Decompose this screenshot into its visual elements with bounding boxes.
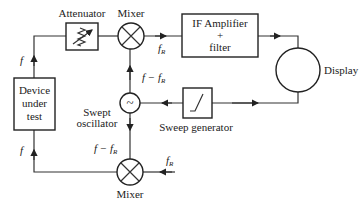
sine-wave-icon: ~: [126, 95, 133, 110]
dut-label-1: Device: [19, 84, 50, 96]
signal-fR-top: fR: [158, 42, 166, 56]
wire-if-to-display: [258, 36, 298, 48]
attenuator-label: Attenuator: [58, 7, 105, 19]
signal-f-minus-fR-top: f − fR: [142, 71, 166, 85]
wire-dut-to-attenuator: [34, 36, 66, 78]
wire-display-sweep: [212, 92, 298, 103]
mixer-bottom-block: Mixer: [117, 159, 144, 200]
signal-fR-bottom: fR: [166, 154, 174, 168]
spectrum-analyzer-block-diagram: Attenuator Mixer IF Amplifier + filter D…: [0, 0, 364, 202]
if-amp-label-3: filter: [209, 41, 231, 53]
mixer-top-label: Mixer: [118, 7, 145, 19]
if-amp-label-1: IF Amplifier: [192, 17, 248, 29]
mixer-bottom-label: Mixer: [117, 188, 144, 200]
display-circle: [276, 48, 320, 92]
swept-osc-label-2: oscillator: [77, 117, 118, 129]
sweep-generator-block: Sweep generator: [159, 88, 233, 133]
mixer-top-block: Mixer: [118, 7, 145, 49]
sweep-generator-label: Sweep generator: [159, 121, 233, 133]
dut-label-3: test: [27, 110, 42, 122]
dut-block: Device under test: [14, 78, 55, 130]
attenuator-box: [66, 23, 98, 50]
dut-label-2: under: [22, 97, 47, 109]
sweep-generator-box: [183, 88, 212, 118]
attenuator-block: Attenuator: [58, 7, 105, 50]
display-block: Display: [276, 48, 359, 92]
if-amplifier-block: IF Amplifier + filter: [182, 14, 258, 57]
signal-f-top: f: [20, 54, 25, 66]
if-amp-label-2: +: [217, 29, 223, 41]
display-label: Display: [324, 64, 359, 76]
signal-f-bottom: f: [20, 144, 25, 156]
signal-f-minus-fR-bottom: f − fR: [94, 142, 118, 156]
